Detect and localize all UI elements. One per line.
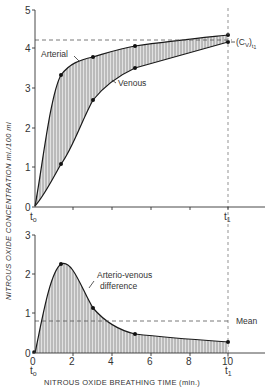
lower-xtick-8: 8 bbox=[186, 356, 192, 367]
venous-label: Venous bbox=[118, 78, 146, 88]
upper-t1-label: t1 bbox=[224, 211, 231, 223]
mean-label: Mean bbox=[236, 316, 258, 326]
upper-t0-label: to bbox=[30, 211, 37, 223]
upper-ytick-2: 2 bbox=[25, 123, 31, 134]
arterial-pointer bbox=[74, 56, 79, 61]
upper-ytick-3: 3 bbox=[25, 83, 31, 94]
cv-t1-label: (CV)t1 bbox=[236, 37, 257, 50]
chart-figure: 0 1 2 3 4 5 to t1 Arterial Venous (CV)t1… bbox=[0, 0, 265, 387]
arterial-label: Arterial bbox=[41, 49, 68, 59]
lower-ytick-2: 2 bbox=[25, 269, 31, 280]
lower-ytick-3: 3 bbox=[25, 230, 31, 241]
av-label-line1: Arterio-venous bbox=[97, 270, 152, 280]
lower-panel: Mean 0 1 2 3 0 2 4 6 8 10 to t1 Arterio-… bbox=[25, 230, 265, 387]
upper-ytick-5: 5 bbox=[25, 5, 31, 16]
lower-xtick-2: 2 bbox=[69, 356, 75, 367]
upper-shaded-band bbox=[35, 35, 228, 206]
y-axis-title: NITROUS OXIDE CONCENTRATION ml./100 ml bbox=[4, 122, 13, 300]
upper-ytick-4: 4 bbox=[25, 43, 31, 54]
x-axis-title: NITROUS OXIDE BREATHING TIME (min.) bbox=[44, 378, 200, 387]
av-pointer bbox=[89, 281, 94, 288]
lower-xtick-6: 6 bbox=[147, 356, 153, 367]
av-label-line2: difference bbox=[100, 281, 137, 291]
upper-ytick-1: 1 bbox=[25, 162, 31, 173]
lower-ytick-1: 1 bbox=[25, 308, 31, 319]
lower-xtick-4: 4 bbox=[108, 356, 114, 367]
